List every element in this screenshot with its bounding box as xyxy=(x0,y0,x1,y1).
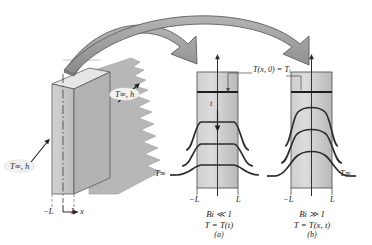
slab-x-axis-label: x xyxy=(80,207,84,216)
panel-b-axis-arrowhead xyxy=(309,54,314,59)
panel-b-caption: Bi ≫ 1 T = T(x, t) (b) xyxy=(275,209,349,240)
convection-pointer-lower-head xyxy=(44,139,50,145)
heat-transfer-figure: T∞, h T∞, h −L L x T(x, 0) = Ti t T∞ −L … xyxy=(0,0,372,245)
panel-a-ambient-label: T∞ xyxy=(155,169,166,178)
panel-a-tag: (a) xyxy=(183,230,255,240)
panel-a-left-boundary-label: −L xyxy=(189,195,199,204)
panel-a-initial-condition-subscript: i xyxy=(289,68,290,74)
panel-a-axis-arrowhead xyxy=(215,54,220,59)
panel-b-left-boundary-label: −L xyxy=(283,195,293,204)
panel-a-graphic xyxy=(170,54,259,196)
panel-b-biot-condition: Bi ≫ 1 xyxy=(275,209,349,220)
panel-a-right-boundary-label: L xyxy=(236,195,241,204)
slab-3d-illustration xyxy=(27,58,161,214)
slab-right-boundary-label: L xyxy=(71,207,76,216)
panel-a-biot-condition: Bi ≪ 1 xyxy=(183,209,255,220)
slab-left-boundary-label: −L xyxy=(43,207,53,216)
panel-b-ambient-label: T∞ xyxy=(340,169,351,178)
panel-b-right-boundary-label: L xyxy=(330,195,335,204)
slab-side-face xyxy=(74,72,110,194)
panel-a-initial-condition-label: T(x, 0) = Ti xyxy=(253,66,290,74)
panel-a-time-arrow-label: t xyxy=(210,100,212,108)
panel-a-temperature-relation: T = T(t) xyxy=(183,220,255,231)
panel-b-temperature-relation: T = T(x, t) xyxy=(275,220,349,231)
panel-a-caption: Bi ≪ 1 T = T(t) (a) xyxy=(183,209,255,240)
fluid-label-lower-text: T∞, h xyxy=(10,161,29,171)
panel-a-initial-condition-text: T(x, 0) = T xyxy=(253,65,289,74)
fluid-label-upper-text: T∞, h xyxy=(115,89,134,99)
panel-b-tag: (b) xyxy=(275,230,349,240)
fluid-label-lower: T∞, h xyxy=(5,160,34,172)
fluid-label-upper: T∞, h xyxy=(110,88,139,100)
